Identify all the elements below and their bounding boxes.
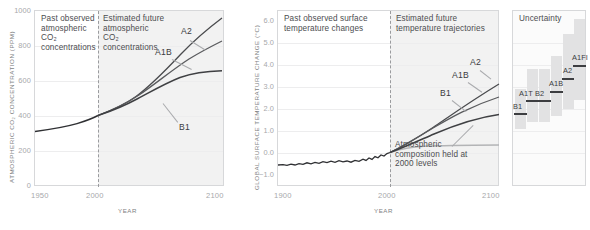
uncertainty-label-b2: B2 (535, 89, 544, 98)
temp-label-b1: B1 (440, 88, 451, 98)
temp-xtick-2100: 2100 (482, 191, 500, 200)
co2-ytick-400: 400 (14, 112, 31, 119)
panel-uncertainty: Uncertainty B1 A1T B2 A1B A2 A1FI (506, 0, 590, 230)
temp-ytick-2: 2.0 (257, 105, 274, 112)
co2-ytick-200: 200 (14, 147, 31, 154)
co2-x-axis-title: YEAR (118, 207, 137, 214)
co2-ytick-600: 600 (14, 77, 31, 84)
co2-past-note: Past observed atmospheric CO₂ concentrat… (41, 14, 99, 52)
temp-xtick-1900: 1900 (274, 191, 292, 200)
uncertainty-label-a1fi: A1FI (572, 53, 588, 62)
temp-label-a1b: A1B (452, 70, 469, 80)
co2-label-a2: A2 (181, 26, 192, 36)
co2-curve-observed (35, 116, 98, 132)
temp-ytick-neg1: −1.0 (253, 171, 274, 178)
co2-xtick-2100: 2100 (206, 191, 224, 200)
temp-ytick-0: 0.0 (257, 149, 274, 156)
temp-ytick-4: 4.0 (257, 61, 274, 68)
temp-xtick-2000: 2000 (378, 191, 396, 200)
co2-label-b1: B1 (179, 122, 190, 132)
uncertainty-best-a1b (550, 91, 563, 93)
temp-x-axis-title: YEAR (374, 207, 393, 214)
co2-ytick-800: 800 (14, 42, 31, 49)
uncertainty-label-a2: A2 (563, 66, 572, 75)
panel-co2: ATMOSPHERIC CO₂ CONCENTRATION (PPM) 1000… (0, 0, 248, 230)
uncertainty-plot-area (512, 10, 586, 186)
co2-ytick-1000: 1000 (14, 7, 31, 14)
climate-projections-figure: ATMOSPHERIC CO₂ CONCENTRATION (PPM) 1000… (0, 0, 590, 230)
temp-label-a2: A2 (470, 57, 481, 67)
co2-label-a1b: A1B (155, 47, 172, 57)
temp-ytick-5: 5.0 (257, 39, 274, 46)
co2-y-axis-title: ATMOSPHERIC CO₂ CONCENTRATION (PPM) (8, 31, 15, 183)
temp-curve-observed (278, 153, 390, 166)
temp-ytick-1: 1.0 (257, 127, 274, 134)
uncertainty-gridline-1 (513, 131, 585, 132)
uncertainty-label-a1t: A1T (519, 89, 533, 98)
temp-future-note: Estimated future temperature trajectorie… (396, 14, 492, 33)
uncertainty-best-a1fi (573, 65, 586, 67)
uncertainty-gridline-0 (513, 153, 585, 154)
uncertainty-title: Uncertainty (519, 14, 579, 24)
temp-constant-composition-note: Atmospheric composition held at 2000 lev… (395, 140, 469, 169)
co2-xtick-2000: 2000 (86, 191, 104, 200)
uncertainty-best-b1 (514, 113, 527, 115)
co2-curve-b1 (98, 71, 222, 116)
co2-xtick-1950: 1950 (31, 191, 49, 200)
temp-ytick-6: 6.0 (257, 17, 274, 24)
temp-past-note: Past observed surface temperature change… (284, 14, 372, 33)
uncertainty-best-b2 (538, 100, 551, 102)
temp-ytick-3: 3.0 (257, 83, 274, 90)
co2-ytick-0: 0 (14, 182, 31, 189)
panel-temperature: GLOBAL SURFACE TEMPERATURE CHANGE (°C) 6… (248, 0, 506, 230)
uncertainty-label-a1b: A1B (549, 79, 563, 88)
uncertainty-label-b1: B1 (513, 102, 522, 111)
